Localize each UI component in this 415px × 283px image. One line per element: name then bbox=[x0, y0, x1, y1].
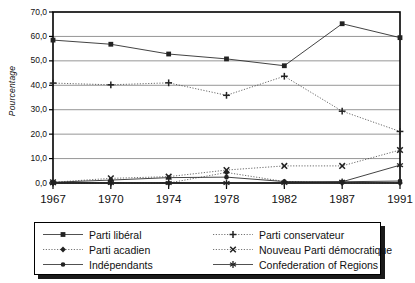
legend-item[interactable]: Indépendants bbox=[41, 257, 209, 272]
x-marker-icon bbox=[211, 242, 255, 257]
data-point bbox=[224, 175, 229, 180]
plot-canvas bbox=[0, 0, 415, 205]
legend-item-label: Parti acadien bbox=[85, 244, 150, 256]
legend-column-right: Parti conservateurNouveau Parti démocrat… bbox=[211, 227, 379, 272]
data-point bbox=[51, 38, 56, 43]
legend-item-label: Parti conservateur bbox=[255, 229, 344, 241]
data-point bbox=[339, 108, 346, 115]
line-chart: Pourcentage 0,010,020,030,040,050,060,07… bbox=[0, 0, 415, 205]
series-line bbox=[53, 76, 400, 131]
chart-screenshot: Pourcentage 0,010,020,030,040,050,060,07… bbox=[0, 0, 415, 283]
legend-item-label: Confederation of Regions bbox=[255, 259, 378, 271]
data-point bbox=[282, 63, 287, 68]
legend-item[interactable]: Parti conservateur bbox=[211, 227, 379, 242]
square-marker-icon bbox=[41, 227, 85, 242]
data-point bbox=[398, 179, 403, 184]
data-point bbox=[166, 175, 171, 180]
chart-legend: Parti libéralParti acadienIndépendants P… bbox=[34, 222, 381, 275]
diamond-marker-icon bbox=[41, 242, 85, 257]
legend-item-label: Parti libéral bbox=[85, 229, 142, 241]
legend-item-label: Nouveau Parti démocratique bbox=[255, 244, 392, 256]
data-point bbox=[108, 42, 113, 47]
legend-item[interactable]: Parti acadien bbox=[41, 242, 209, 257]
data-point bbox=[339, 163, 345, 169]
legend-item[interactable]: Parti libéral bbox=[41, 227, 209, 242]
legend-column-left: Parti libéralParti acadienIndépendants bbox=[41, 227, 209, 272]
circle-marker-icon bbox=[41, 257, 85, 272]
data-point bbox=[224, 57, 229, 62]
legend-item[interactable]: Nouveau Parti démocratique bbox=[211, 242, 379, 257]
legend-item-label: Indépendants bbox=[85, 259, 153, 271]
data-point bbox=[281, 73, 288, 80]
data-point bbox=[166, 52, 171, 57]
plus-marker-icon bbox=[211, 227, 255, 242]
data-point bbox=[397, 162, 403, 169]
data-point bbox=[223, 92, 230, 99]
data-point bbox=[340, 21, 345, 26]
legend-item[interactable]: Confederation of Regions bbox=[211, 257, 379, 272]
data-point bbox=[107, 81, 114, 88]
data-point bbox=[398, 35, 403, 40]
star-marker-icon bbox=[211, 257, 255, 272]
